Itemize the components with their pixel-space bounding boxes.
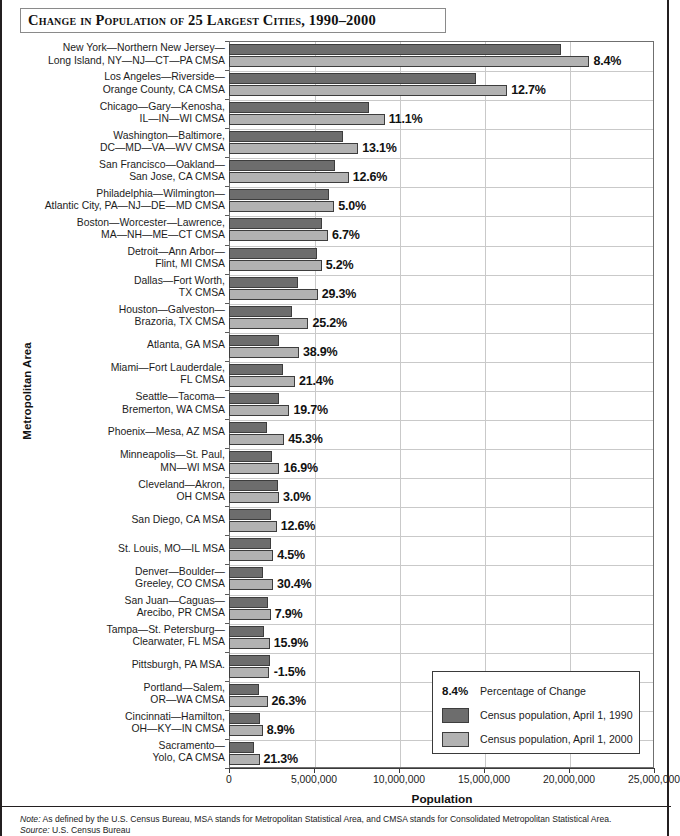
category-label: Dallas—Fort Worth, TX CMSA xyxy=(32,275,225,299)
category-tick xyxy=(225,99,229,100)
legend: 8.4% Percentage of Change Census populat… xyxy=(432,671,640,754)
category-label: Portland—Salem, OR—WA CMSA xyxy=(32,682,225,706)
category-label: Los Angeles—Riverside— Orange County, CA… xyxy=(32,71,225,95)
percentage-change-label: 8.9% xyxy=(263,723,295,737)
bar-2000 xyxy=(229,696,268,707)
bar-group: 25.2% xyxy=(229,305,654,334)
category-tick xyxy=(225,681,229,682)
chart-title-box: Change in Population of 25 Largest Citie… xyxy=(20,8,446,33)
bar-2000 xyxy=(229,550,273,561)
note-text: Note: As defined by the U.S. Census Bure… xyxy=(20,814,660,825)
bar-group: 4.5% xyxy=(229,537,654,566)
category-label: New York—Northern New Jersey— Long Islan… xyxy=(32,42,225,66)
category-tick xyxy=(225,361,229,362)
bar-1990 xyxy=(229,451,272,462)
bar-1990 xyxy=(229,131,343,142)
bar-1990 xyxy=(229,684,259,695)
category-tick xyxy=(225,41,229,42)
category-tick xyxy=(225,710,229,711)
category-label: St. Louis, MO—IL MSA xyxy=(32,543,225,555)
bar-1990 xyxy=(229,189,329,200)
bar-1990 xyxy=(229,655,270,666)
percentage-change-label: 7.9% xyxy=(271,607,303,621)
category-tick xyxy=(225,739,229,740)
bar-1990 xyxy=(229,742,254,753)
x-axis-tick-label: 10,000,000 xyxy=(373,774,425,785)
bar-group: 15.9% xyxy=(229,625,654,654)
category-tick xyxy=(225,506,229,507)
category-tick xyxy=(225,70,229,71)
category-tick xyxy=(225,274,229,275)
bar-2000 xyxy=(229,230,328,241)
percentage-change-label: 4.5% xyxy=(273,548,305,562)
bar-2000 xyxy=(229,492,279,503)
percentage-change-label: 21.4% xyxy=(295,374,333,388)
bar-1990 xyxy=(229,73,476,84)
percentage-change-label: 5.2% xyxy=(322,258,354,272)
x-axis-tick xyxy=(314,769,315,773)
page-title: Change in Population of 25 Largest Citie… xyxy=(28,12,376,29)
percentage-change-label: 15.9% xyxy=(270,636,308,650)
bar-2000 xyxy=(229,609,271,620)
category-tick xyxy=(225,768,229,769)
bar-group: 7.9% xyxy=(229,596,654,625)
bar-1990 xyxy=(229,626,264,637)
bar-1990 xyxy=(229,102,369,113)
bar-1990 xyxy=(229,713,260,724)
category-label: Minneapolis—St. Paul, MN—WI MSA xyxy=(32,449,225,473)
bar-group: 3.0% xyxy=(229,479,654,508)
legend-label-2000: Census population, April 1, 2000 xyxy=(480,733,633,745)
bar-2000 xyxy=(229,318,308,329)
category-tick xyxy=(225,594,229,595)
bar-group: 6.7% xyxy=(229,217,654,246)
bar-2000 xyxy=(229,143,358,154)
bar-1990 xyxy=(229,422,267,433)
category-label: Miami—Fort Lauderdale, FL CMSA xyxy=(32,362,225,386)
category-label: Philadelphia—Wilmington— Atlantic City, … xyxy=(32,188,225,212)
bar-1990 xyxy=(229,335,279,346)
category-tick xyxy=(225,303,229,304)
category-tick xyxy=(225,652,229,653)
bar-group: 16.9% xyxy=(229,450,654,479)
bar-1990 xyxy=(229,393,279,404)
bar-1990 xyxy=(229,597,268,608)
percentage-change-label: 45.3% xyxy=(284,432,322,446)
category-tick xyxy=(225,157,229,158)
percentage-change-label: 30.4% xyxy=(273,577,311,591)
legend-row-percentage: 8.4% Percentage of Change xyxy=(442,679,639,703)
percentage-change-label: 19.7% xyxy=(289,403,327,417)
bar-group: 29.3% xyxy=(229,276,654,305)
source-prefix: Source: xyxy=(20,825,50,835)
bar-1990 xyxy=(229,218,322,229)
x-axis-tick-label: 20,000,000 xyxy=(543,774,595,785)
bar-2000 xyxy=(229,405,289,416)
percentage-change-label: 11.1% xyxy=(385,112,423,126)
category-label: Cleveland—Akron, OH CMSA xyxy=(32,479,225,503)
bar-1990 xyxy=(229,248,317,259)
bar-group: 21.4% xyxy=(229,363,654,392)
category-label: Phoenix—Mesa, AZ MSA xyxy=(32,426,225,438)
percentage-change-label: 6.7% xyxy=(328,228,360,242)
bar-2000 xyxy=(229,347,299,358)
category-label: Houston—Galveston— Brazoria, TX CMSA xyxy=(32,304,225,328)
legend-swatch-1990 xyxy=(442,708,469,723)
category-tick xyxy=(225,564,229,565)
percentage-change-label: 3.0% xyxy=(279,490,311,504)
percentage-change-label: 12.6% xyxy=(349,170,387,184)
category-label: Pittsburgh, PA MSA. xyxy=(32,659,225,671)
percentage-change-label: 5.0% xyxy=(334,199,366,213)
bar-group: 5.2% xyxy=(229,247,654,276)
category-label: Chicago—Gary—Kenosha, IL—IN—WI CMSA xyxy=(32,101,225,125)
source-text: Source: U.S. Census Bureau xyxy=(20,825,660,836)
category-label: Cincinnati—Hamilton, OH—KY—IN CMSA xyxy=(32,711,225,735)
legend-label-1990: Census population, April 1, 1990 xyxy=(480,709,633,721)
bar-group: 13.1% xyxy=(229,130,654,159)
bar-group: 45.3% xyxy=(229,421,654,450)
percentage-change-label: 25.2% xyxy=(308,316,346,330)
bar-2000 xyxy=(229,172,349,183)
category-label: Detroit—Ann Arbor— Flint, MI CMSA xyxy=(32,246,225,270)
source-body: U.S. Census Bureau xyxy=(50,825,131,835)
bar-group: 19.7% xyxy=(229,392,654,421)
x-axis-tick xyxy=(229,769,230,773)
